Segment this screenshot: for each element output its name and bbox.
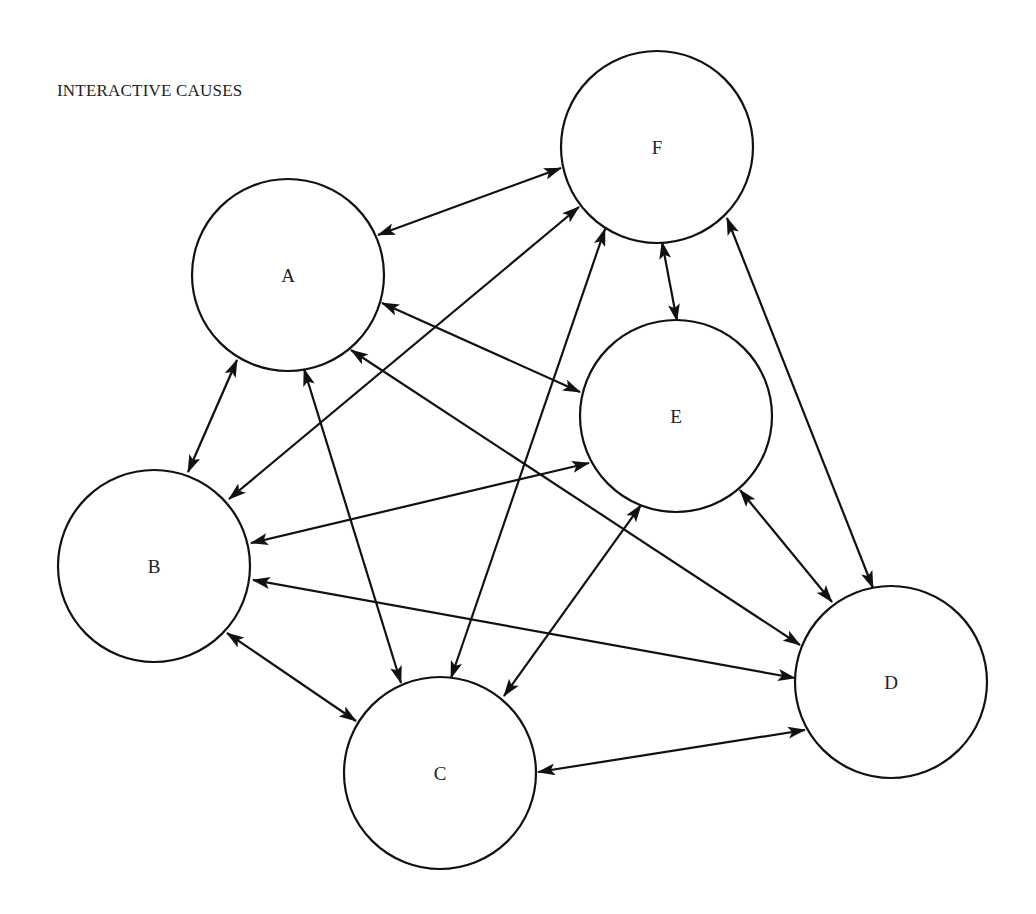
node-label: D	[884, 672, 898, 693]
arrow-b-d	[253, 580, 795, 678]
nodes-layer: ABCDEF	[58, 51, 987, 869]
causal-network-diagram: ABCDEF	[0, 0, 1036, 914]
node-a: A	[192, 179, 384, 371]
node-label: A	[281, 265, 295, 286]
node-label: E	[670, 406, 682, 427]
node-c: C	[344, 677, 536, 869]
node-d: D	[795, 586, 987, 778]
arrow-c-d	[538, 730, 805, 772]
arrow-b-c	[227, 633, 356, 721]
arrow-f-e	[662, 242, 677, 321]
node-label: F	[652, 137, 663, 158]
arrow-e-d	[740, 490, 832, 602]
arrow-b-e	[251, 463, 589, 543]
node-label: B	[148, 556, 161, 577]
arrow-c-e	[504, 505, 641, 696]
node-f: F	[561, 51, 753, 243]
node-b: B	[58, 470, 250, 662]
node-label: C	[434, 763, 447, 784]
arrow-a-f	[378, 168, 561, 235]
arrow-a-b	[188, 360, 237, 472]
arrow-c-f	[451, 229, 605, 678]
node-e: E	[580, 320, 772, 512]
